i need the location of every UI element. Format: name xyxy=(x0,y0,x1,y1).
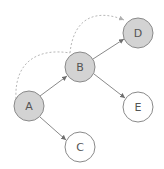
node-c: C xyxy=(65,132,95,162)
node-a-label: A xyxy=(25,100,33,113)
node-a: A xyxy=(14,91,44,121)
edge-b-d xyxy=(93,39,124,59)
node-e-label: E xyxy=(135,101,142,114)
edge-b-e xyxy=(94,74,125,98)
edge-a-b xyxy=(40,76,67,96)
graph-diagram: A B C D E xyxy=(0,0,164,169)
node-c-label: C xyxy=(76,141,84,154)
node-b-label: B xyxy=(76,61,84,74)
edge-b-d-dashed xyxy=(70,15,124,53)
node-d-label: D xyxy=(134,27,142,40)
node-d: D xyxy=(123,18,153,48)
node-b: B xyxy=(65,52,95,82)
edge-a-c xyxy=(40,117,66,140)
node-e: E xyxy=(123,92,153,122)
